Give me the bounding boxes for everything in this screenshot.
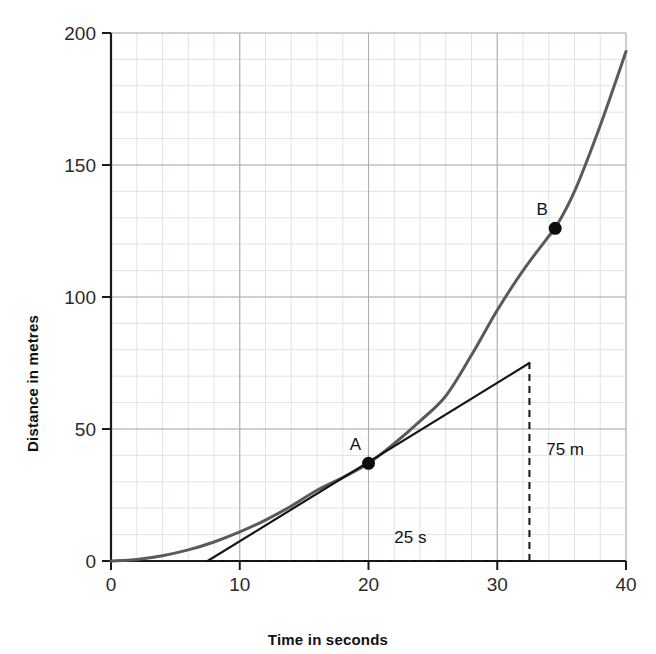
- data-point-b: [549, 222, 562, 235]
- y-tick-label: 0: [85, 551, 96, 572]
- rise-label: 75 m: [546, 440, 584, 459]
- distance-time-chart: 010203040050100150200AB75 m25 s Time in …: [0, 0, 656, 654]
- run-label: 25 s: [394, 528, 426, 547]
- y-tick-label: 100: [64, 287, 96, 308]
- y-tick-label: 200: [64, 23, 96, 44]
- x-tick-label: 10: [229, 574, 250, 595]
- x-axis-title: Time in seconds: [0, 631, 656, 648]
- point-label-b: B: [537, 200, 548, 219]
- x-tick-label: 0: [106, 574, 117, 595]
- x-tick-label: 40: [615, 574, 636, 595]
- tick-labels: 010203040050100150200: [64, 23, 636, 595]
- y-tick-label: 50: [75, 419, 96, 440]
- plot-area: 010203040050100150200AB75 m25 s: [0, 0, 656, 654]
- point-label-a: A: [350, 435, 362, 454]
- x-tick-label: 20: [358, 574, 379, 595]
- data-point-a: [362, 457, 375, 470]
- y-tick-label: 150: [64, 155, 96, 176]
- x-tick-label: 30: [487, 574, 508, 595]
- y-axis-title: Distance in metres: [24, 315, 41, 452]
